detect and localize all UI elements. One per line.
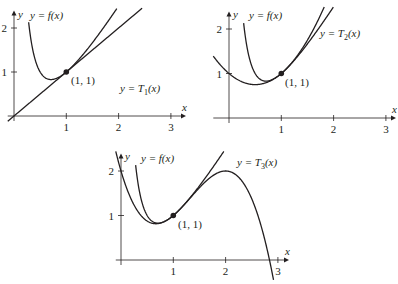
x-tick-label: 1 [64, 121, 70, 133]
y-axis-arrow [119, 153, 124, 158]
y-tick-label: 1 [2, 66, 8, 78]
y-tick-label: 2 [109, 165, 115, 177]
taylor-curve [116, 151, 274, 280]
x-tick-label: 1 [279, 123, 285, 135]
f-label: y = f(x) [248, 9, 282, 22]
taylor-label: y = T1(x) [119, 82, 160, 97]
y-axis-arrow [227, 11, 232, 16]
f-label: y = f(x) [29, 9, 63, 22]
x-axis-label: x [391, 103, 397, 115]
x-axis-label: x [181, 101, 187, 113]
x-tick-label: 2 [223, 265, 229, 277]
x-tick-label: 1 [171, 265, 177, 277]
y-tick-label: 1 [217, 68, 223, 80]
x-tick-label: 2 [331, 123, 337, 135]
panel-1: xy12312(1, 1)y = f(x)y = T1(x) [2, 8, 188, 133]
panel-3: xy12312(1, 1)y = f(x)y = T3(x) [109, 150, 291, 279]
x-tick-label: 3 [383, 123, 389, 135]
tangent-point [64, 69, 70, 75]
y-tick-label: 2 [217, 23, 223, 35]
f-label: y = f(x) [140, 152, 174, 165]
taylor-label: y = T3(x) [236, 156, 277, 171]
point-label: (1, 1) [178, 218, 202, 231]
point-label: (1, 1) [71, 74, 95, 87]
x-axis-arrow [391, 116, 396, 121]
x-axis-arrow [181, 114, 186, 119]
y-axis-arrow [12, 11, 17, 16]
x-tick-label: 3 [275, 265, 281, 277]
y-tick-label: 1 [109, 210, 115, 222]
y-axis-label: y [232, 8, 238, 20]
taylor-figure: xy12312(1, 1)y = f(x)y = T1(x)xy12312(1,… [0, 0, 398, 284]
y-axis-label: y [17, 8, 23, 20]
taylor-curve [8, 8, 142, 121]
tangent-point [171, 213, 177, 219]
panel-2: xy12312(1, 1)y = f(x)y = T2(x) [213, 7, 397, 135]
x-axis-label: x [284, 245, 290, 257]
x-tick-label: 3 [168, 121, 174, 133]
taylor-label: y = T2(x) [319, 27, 360, 42]
x-axis-arrow [284, 258, 289, 263]
point-label: (1, 1) [285, 76, 309, 89]
x-tick-label: 2 [116, 121, 122, 133]
y-tick-label: 2 [2, 22, 8, 34]
y-axis-label: y [124, 150, 130, 162]
tangent-point [279, 71, 285, 77]
